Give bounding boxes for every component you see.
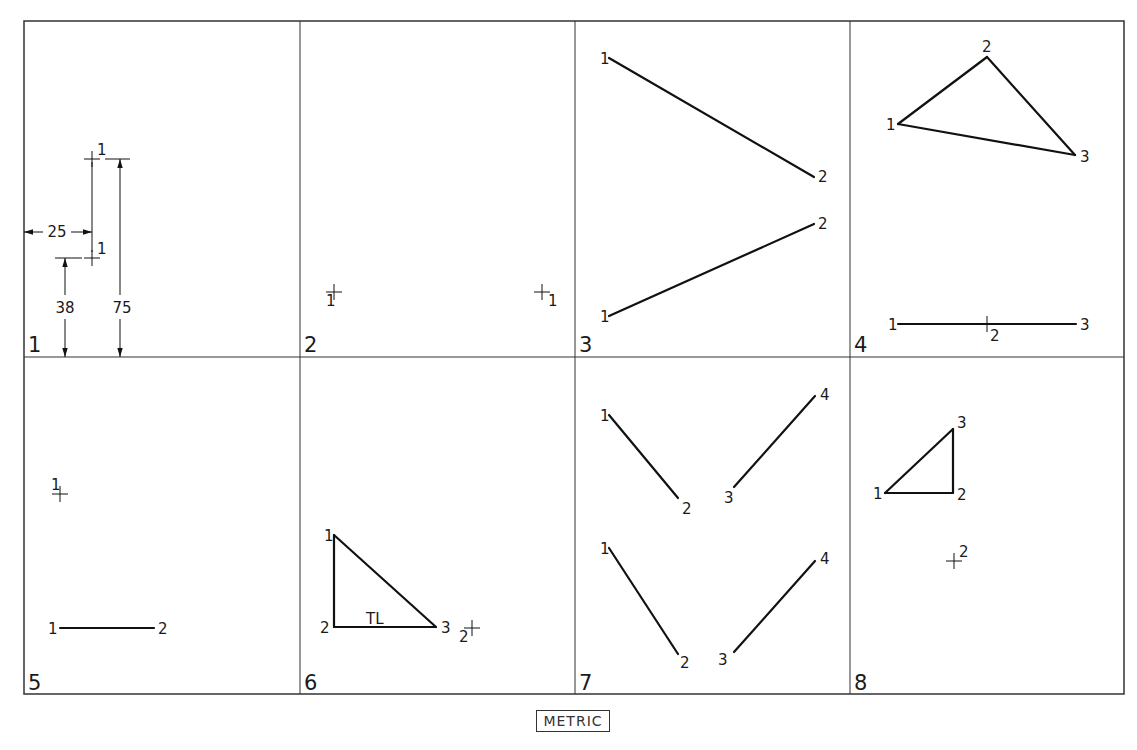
- point-label: 3: [718, 651, 728, 669]
- point-label: 2: [320, 619, 330, 637]
- panel-number: 2: [304, 333, 317, 357]
- panel-1: 111253875: [24, 141, 132, 357]
- point-label: 3: [1080, 316, 1090, 334]
- panel-number: 3: [579, 333, 592, 357]
- true-length-label: TL: [365, 610, 384, 628]
- panel-number: 8: [854, 671, 867, 695]
- panel-number: 1: [28, 333, 41, 357]
- line-segment: [609, 224, 814, 316]
- panel-3: 31221: [579, 50, 828, 357]
- point-label: 2: [680, 654, 690, 672]
- point-label: 2: [158, 620, 168, 638]
- point-label: 2: [818, 168, 828, 186]
- point-label: 1: [886, 116, 896, 134]
- line-segment: [898, 124, 1075, 155]
- point-label: 2: [459, 628, 469, 646]
- panel-8: 82123: [854, 414, 969, 695]
- point-label: 1: [873, 485, 883, 503]
- point-label: 3: [1080, 148, 1090, 166]
- point-label: 1: [600, 308, 610, 326]
- point-label: 4: [820, 386, 830, 404]
- point-cross-icon: 1: [534, 284, 558, 310]
- panels: 111253875211312214213123511262123TL71234…: [24, 38, 1090, 695]
- point-cross-icon: 2: [459, 620, 480, 646]
- panel-5: 5112: [28, 476, 168, 695]
- point-cross-icon: 2: [946, 543, 969, 569]
- drawing-sheet: 111253875211312214213123511262123TL71234…: [0, 0, 1137, 750]
- dimension-38: 38: [55, 258, 82, 357]
- dimension-value: 38: [55, 299, 74, 317]
- point-label: 3: [441, 619, 451, 637]
- panel-2: 211: [304, 284, 558, 357]
- point-label: 4: [820, 550, 830, 568]
- point-cross-icon: 1: [326, 284, 342, 310]
- panel-6: 62123TL: [304, 527, 480, 695]
- point-cross-icon: 1: [51, 476, 68, 502]
- panel-number: 6: [304, 671, 317, 695]
- point-label: 1: [600, 407, 610, 425]
- point-label: 2: [990, 327, 1000, 345]
- point-label: 2: [818, 215, 828, 233]
- panel-number: 7: [579, 671, 592, 695]
- line-segment: [334, 535, 436, 627]
- point-label: 1: [97, 141, 107, 159]
- dimension-value: 75: [112, 299, 131, 317]
- dimension-value: 25: [47, 223, 66, 241]
- point-label: 1: [51, 476, 61, 494]
- metric-label: METRIC: [536, 710, 610, 732]
- point-label: 3: [957, 414, 967, 432]
- line-segment: [987, 57, 1075, 155]
- point-label: 1: [326, 292, 336, 310]
- point-label: 1: [600, 540, 610, 558]
- line-segment: [734, 396, 815, 487]
- dimension-75: 75: [105, 159, 132, 357]
- point-label: 2: [682, 500, 692, 518]
- point-label: 1: [888, 316, 898, 334]
- point-label: 2: [982, 38, 992, 56]
- point-label: 2: [959, 543, 969, 561]
- point-label: 2: [957, 486, 967, 504]
- point-label: 1: [600, 50, 610, 68]
- line-segment: [609, 415, 678, 498]
- point-cross-icon: 1: [84, 240, 107, 266]
- panel-grid: [24, 21, 1124, 694]
- line-segment: [609, 58, 814, 177]
- point-cross-icon: 1: [84, 141, 107, 167]
- line-segment: [885, 429, 953, 493]
- point-label: 1: [324, 527, 334, 545]
- dimension-25: 25: [24, 162, 92, 252]
- point-label: 3: [724, 489, 734, 507]
- panel-number: 4: [854, 333, 867, 357]
- line-segment: [898, 57, 987, 124]
- point-label: 1: [97, 240, 107, 258]
- panel-7: 712341234: [579, 386, 830, 695]
- panel-4: 4213123: [854, 38, 1090, 357]
- point-label: 1: [548, 292, 558, 310]
- line-segment: [609, 548, 678, 654]
- line-segment: [734, 561, 815, 652]
- panel-number: 5: [28, 671, 41, 695]
- point-label: 1: [48, 620, 58, 638]
